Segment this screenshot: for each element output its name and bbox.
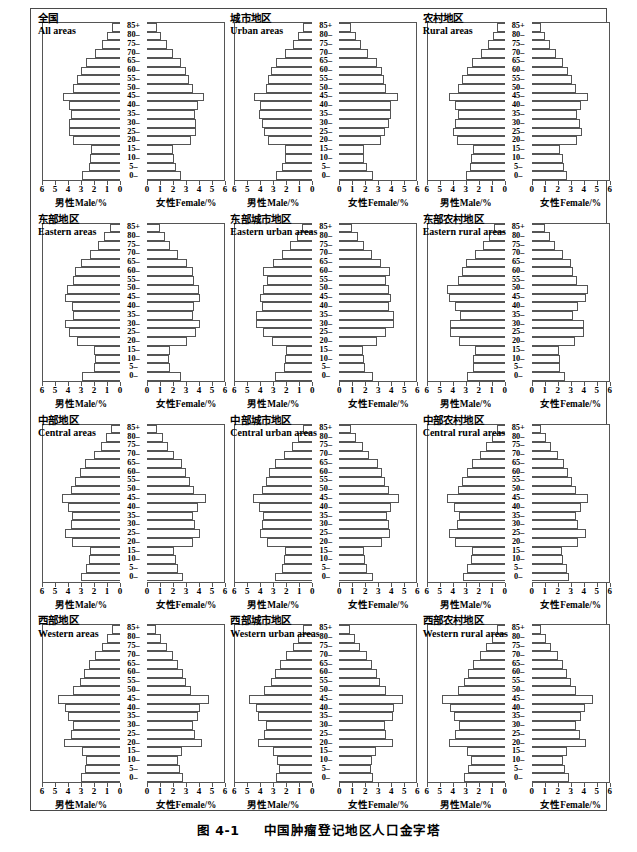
bar-male-5 bbox=[279, 765, 313, 774]
age-tick-label: 0– bbox=[120, 774, 147, 783]
bar-row bbox=[532, 84, 609, 93]
bar-female-30 bbox=[339, 721, 385, 730]
bar-female-50 bbox=[147, 84, 193, 93]
bar-female-5 bbox=[147, 765, 180, 774]
x-tick-label: 0 bbox=[118, 787, 123, 796]
female-tick-labels: 0123456 bbox=[339, 587, 417, 598]
bar-female-60 bbox=[532, 67, 568, 76]
bar-row bbox=[532, 49, 609, 58]
bar-row bbox=[147, 459, 224, 468]
bar-row bbox=[339, 704, 416, 713]
female-tick-labels: 0123456 bbox=[339, 185, 417, 196]
bar-row bbox=[339, 433, 416, 442]
bar-row bbox=[147, 730, 224, 739]
bar-male-50 bbox=[458, 486, 505, 495]
male-axis-caption-cn: 男性 bbox=[55, 398, 75, 409]
bar-female-35 bbox=[532, 311, 574, 320]
age-tick-label: 80– bbox=[312, 232, 339, 241]
bar-male-35 bbox=[73, 311, 120, 320]
bar-row bbox=[235, 704, 312, 713]
bar-row bbox=[43, 259, 120, 268]
bar-row bbox=[532, 678, 609, 687]
male-tick-labels: 6543210 bbox=[427, 185, 505, 196]
bar-male-10 bbox=[471, 756, 505, 765]
age-tick-label: 40– bbox=[120, 503, 147, 512]
bar-row bbox=[235, 101, 312, 110]
bar-female-20 bbox=[339, 136, 381, 145]
bar-male-70 bbox=[282, 250, 312, 259]
plot-area: 85+80–75–70–65–60–55–50–45–40–35–30–25–2… bbox=[421, 223, 603, 381]
bar-row bbox=[532, 573, 609, 582]
bar-female-45 bbox=[339, 695, 403, 704]
x-tick-label: 0 bbox=[502, 386, 507, 395]
bar-row bbox=[147, 477, 224, 486]
bar-female-80 bbox=[532, 32, 545, 41]
x-tick-label: 0 bbox=[145, 386, 150, 395]
x-tick-label: 5 bbox=[594, 185, 599, 194]
female-bars bbox=[532, 224, 609, 381]
bar-row bbox=[147, 110, 224, 119]
bar-row bbox=[428, 643, 505, 652]
x-tick-label: 1 bbox=[542, 787, 547, 796]
male-bars bbox=[235, 425, 312, 582]
bar-female-5 bbox=[339, 765, 370, 774]
bar-row bbox=[235, 119, 312, 128]
bar-male-20 bbox=[272, 337, 312, 346]
bar-row bbox=[43, 163, 120, 172]
bar-female-45 bbox=[339, 494, 399, 503]
bar-row bbox=[428, 285, 505, 294]
age-group-axis: 85+80–75–70–65–60–55–50–45–40–35–30–25–2… bbox=[120, 22, 147, 180]
bar-male-40 bbox=[454, 503, 505, 512]
bar-row bbox=[428, 84, 505, 93]
x-tick-label: 5 bbox=[402, 587, 407, 596]
bar-row bbox=[235, 468, 312, 477]
bar-row bbox=[532, 564, 609, 573]
bar-row bbox=[43, 267, 120, 276]
bar-female-75 bbox=[532, 40, 550, 49]
bar-male-55 bbox=[267, 276, 313, 285]
bar-female-50 bbox=[147, 486, 194, 495]
bar-row bbox=[532, 486, 609, 495]
x-tick-label: 6 bbox=[40, 787, 45, 796]
bar-row bbox=[235, 538, 312, 547]
bar-row bbox=[235, 547, 312, 556]
bar-female-0 bbox=[147, 573, 183, 582]
bar-row bbox=[235, 145, 312, 154]
female-axis-caption-cn: 女性 bbox=[540, 398, 560, 409]
bar-row bbox=[339, 442, 416, 451]
bar-row bbox=[339, 145, 416, 154]
bar-male-65 bbox=[472, 58, 505, 67]
bar-female-5 bbox=[339, 163, 366, 172]
bar-male-25 bbox=[69, 328, 120, 337]
bar-row bbox=[339, 302, 416, 311]
bar-row bbox=[339, 276, 416, 285]
bar-row bbox=[235, 241, 312, 250]
male-axis-caption-cn: 男性 bbox=[247, 197, 267, 208]
bar-row bbox=[532, 730, 609, 739]
male-axis-caption-cn: 男性 bbox=[247, 599, 267, 610]
bar-male-45 bbox=[254, 93, 313, 102]
bar-row bbox=[339, 660, 416, 669]
bar-male-10 bbox=[277, 756, 312, 765]
bar-row bbox=[428, 512, 505, 521]
x-tick-label: 6 bbox=[424, 587, 429, 596]
bar-row bbox=[147, 747, 224, 756]
bar-row bbox=[235, 695, 312, 704]
male-half-axis bbox=[42, 22, 120, 180]
bar-male-85plus bbox=[494, 224, 504, 233]
male-half-axis bbox=[427, 624, 505, 782]
bar-female-45 bbox=[532, 294, 587, 303]
x-tick-label: 2 bbox=[92, 587, 97, 596]
female-tick-labels: 0123456 bbox=[147, 386, 225, 397]
bar-female-20 bbox=[147, 538, 193, 547]
bar-row bbox=[43, 84, 120, 93]
bar-row bbox=[43, 643, 120, 652]
bar-row bbox=[147, 145, 224, 154]
x-tick-label: 1 bbox=[489, 386, 494, 395]
bar-male-20 bbox=[72, 538, 120, 547]
bar-male-10 bbox=[86, 756, 120, 765]
bar-female-75 bbox=[532, 241, 555, 250]
bar-row bbox=[339, 477, 416, 486]
bar-male-50 bbox=[71, 486, 120, 495]
bar-row bbox=[43, 704, 120, 713]
